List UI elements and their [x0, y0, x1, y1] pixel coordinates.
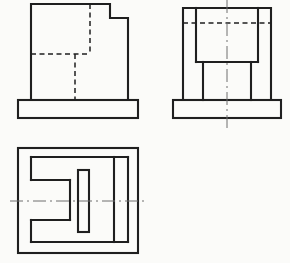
front-view-rect: [18, 100, 138, 118]
front-view-outline: [31, 4, 128, 100]
orthographic-projection-svg: [0, 0, 290, 263]
front-view: [18, 4, 138, 118]
top-view: [10, 148, 148, 253]
side-view: [173, 0, 281, 131]
technical-drawing-page: [0, 0, 290, 263]
